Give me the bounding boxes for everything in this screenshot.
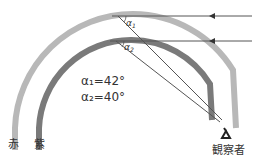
red-arc [15,14,236,150]
alpha2-equation: α₂=40° [81,90,125,104]
violet-label: 紫 [34,138,45,151]
rainbow-diagram: α1 α2 α₁=42° α₂=40° 赤 紫 観察者 [0,0,260,160]
arrow-left-icon [209,13,215,19]
alpha1-equation: α₁=42° [81,74,125,88]
observer-label: 観察者 [212,143,245,157]
alpha1-label: α1 [126,18,136,29]
ray-to-observer-2 [116,41,220,122]
ray-to-observer-1 [118,16,222,120]
alpha2-label: α2 [124,42,134,53]
eye-icon [222,128,230,138]
red-label: 赤 [8,138,19,151]
